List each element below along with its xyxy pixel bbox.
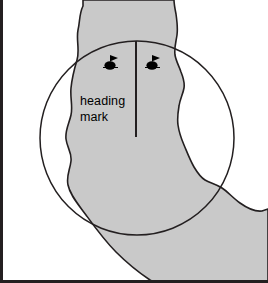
diagram-canvas: heading mark	[0, 0, 268, 283]
radar-heading-mark-diagram: heading mark	[0, 0, 268, 283]
heading-mark-label-line1: heading	[80, 94, 125, 108]
heading-mark-label-line2: mark	[80, 110, 109, 124]
